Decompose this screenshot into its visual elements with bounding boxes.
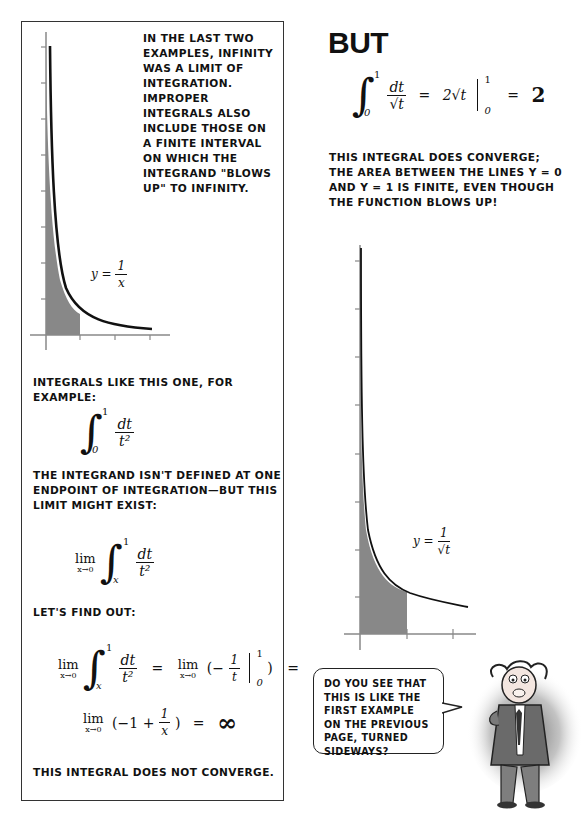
find-out-text: Let's find out:: [33, 605, 283, 620]
evaluation-bar: [477, 79, 478, 111]
converge-text: This integral does converge; the area be…: [329, 150, 564, 210]
example-lead-text: Integrals like this one, for example:: [33, 375, 283, 405]
evaluation-line-1: limx→0 ∫ 1 x dtt² = limx→0 (− 1t 10 ) =: [58, 646, 299, 690]
conclusion-text: This integral does not converge.: [33, 765, 283, 780]
integral-dt-over-t-squared: ∫ 1 0 dtt²: [80, 410, 134, 454]
graph-label-1-over-sqrt-t: y = 1√t: [413, 525, 450, 558]
integral-sign-icon: ∫: [83, 646, 106, 690]
cartoon-professor-illustration: [455, 655, 582, 817]
limit-integral: limx→0 ∫ 1 x dtt²: [75, 540, 154, 584]
result-value: 2: [531, 83, 545, 107]
graph-one-over-sqrt-t: [330, 240, 490, 650]
intro-text: In the last two examples, infinity was a…: [143, 31, 278, 196]
integral-sign-icon: ∫: [100, 540, 123, 584]
infinity-result: ∞: [217, 708, 237, 737]
graph-label-1-over-x: y = 1x: [91, 258, 127, 291]
evaluation-line-2: limx→0 (−1 + 1x ) = ∞: [83, 706, 237, 739]
convergent-integral: ∫ 1 0 dt√t = 2√t 10 = 2: [352, 73, 545, 117]
speech-bubble: Do you see that this is like the first e…: [313, 668, 444, 754]
evaluation-bar: [249, 653, 250, 683]
heading-but: BUT: [328, 26, 388, 60]
integrand-note: The integrand isn't defined at one endpo…: [33, 468, 283, 513]
